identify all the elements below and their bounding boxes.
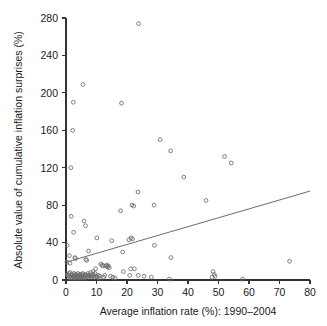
scatter-point <box>121 270 125 274</box>
x-axis-title-text: Average inflation rate (%): 1990–2004 <box>100 305 277 317</box>
y-tick-label: 80 <box>46 199 58 211</box>
trendline-segment <box>66 191 310 262</box>
x-tick-label: 40 <box>182 286 194 298</box>
scatter-point <box>229 161 233 165</box>
x-tick-label: 20 <box>121 286 133 298</box>
y-tick-label: 160 <box>40 124 58 136</box>
scatter-point <box>95 236 99 240</box>
scatter-point <box>81 83 85 87</box>
scatter-point <box>169 149 173 153</box>
scatter-point <box>128 273 132 277</box>
scatter-point <box>109 274 113 278</box>
x-axis-ticks: 01020304050607080 <box>63 280 316 298</box>
scatter-point <box>169 256 173 260</box>
x-tick-label: 0 <box>63 286 69 298</box>
x-tick-label: 60 <box>243 286 255 298</box>
scatter-point <box>129 267 133 271</box>
scatter-point <box>132 267 136 271</box>
y-tick-label: 120 <box>40 162 58 174</box>
scatter-point <box>85 258 89 262</box>
scatter-point <box>136 190 140 194</box>
y-axis-title: Absolute value of cumulative inflation s… <box>12 31 24 269</box>
scatter-point <box>82 219 86 223</box>
y-tick-label: 0 <box>52 274 58 286</box>
scatter-point <box>71 100 75 104</box>
scatter-point <box>69 166 73 170</box>
scatter-chart-figure: Absolute value of cumulative inflation s… <box>0 0 327 326</box>
scatter-point <box>152 203 156 207</box>
scatter-point <box>150 275 154 279</box>
x-tick-label: 70 <box>274 286 286 298</box>
scatter-point <box>136 273 140 277</box>
scatter-point <box>153 243 157 247</box>
scatter-point <box>120 101 124 105</box>
x-tick-label: 50 <box>213 286 225 298</box>
y-tick-label: 40 <box>46 236 58 248</box>
x-axis-title: Average inflation rate (%): 1990–2004 <box>100 305 277 317</box>
chart-canvas: Absolute value of cumulative inflation s… <box>0 0 327 326</box>
scatter-point <box>69 214 73 218</box>
y-tick-label: 200 <box>40 87 58 99</box>
scatter-point <box>288 259 292 263</box>
scatter-point <box>137 22 141 26</box>
y-axis-ticks: 04080120160200240280 <box>40 12 66 286</box>
scatter-point <box>121 250 125 254</box>
scatter-point <box>71 128 75 132</box>
y-tick-label: 280 <box>40 12 58 24</box>
scatter-point <box>87 249 91 253</box>
chart-axes <box>66 18 310 280</box>
scatter-point <box>182 175 186 179</box>
x-tick-label: 30 <box>152 286 164 298</box>
scatter-point <box>223 155 227 159</box>
y-tick-label: 240 <box>40 49 58 61</box>
x-tick-label: 80 <box>304 286 316 298</box>
scatter-point <box>110 239 114 243</box>
scatter-point <box>119 209 123 213</box>
y-axis-title-text: Absolute value of cumulative inflation s… <box>12 31 24 269</box>
scatter-point <box>158 138 162 142</box>
data-points <box>65 22 291 281</box>
scatter-point <box>84 224 88 228</box>
trendline <box>66 191 310 262</box>
scatter-point <box>72 230 76 234</box>
scatter-point <box>204 199 208 203</box>
x-tick-label: 10 <box>91 286 103 298</box>
scatter-point <box>67 254 71 258</box>
scatter-point <box>142 274 146 278</box>
